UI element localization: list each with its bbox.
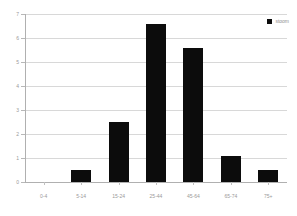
y-tick-label-5: 5 <box>0 59 19 65</box>
y-tick-label-4: 4 <box>0 83 19 89</box>
bar-25-44 <box>146 24 166 182</box>
y-tick-2 <box>21 134 25 135</box>
y-tick-6 <box>21 38 25 39</box>
bar-75+ <box>258 170 278 182</box>
plot-area <box>25 14 287 182</box>
bar-chart: 01234567 0-45-1415-2425-4445-6465-7475+ … <box>0 0 297 216</box>
x-tick-label-75+: 75+ <box>250 193 287 200</box>
x-tick-25-44 <box>156 182 157 185</box>
y-tick-1 <box>21 158 25 159</box>
y-tick-label-2: 2 <box>0 131 19 137</box>
x-tick-label-0-4: 0-4 <box>25 193 62 200</box>
y-tick-label-3: 3 <box>0 107 19 113</box>
legend-swatch-series-1 <box>267 19 272 24</box>
x-tick-65-74 <box>231 182 232 185</box>
y-tick-3 <box>21 110 25 111</box>
bar-45-64 <box>183 48 203 182</box>
legend: stoom <box>267 18 289 24</box>
x-tick-label-5-14: 5-14 <box>62 193 99 200</box>
legend-label-series-1: stoom <box>275 18 289 24</box>
x-tick-label-65-74: 65-74 <box>212 193 249 200</box>
y-tick-0 <box>21 182 25 183</box>
x-tick-15-24 <box>119 182 120 185</box>
x-tick-0-4 <box>44 182 45 185</box>
y-tick-label-7: 7 <box>0 11 19 17</box>
y-tick-label-6: 6 <box>0 35 19 41</box>
x-tick-label-45-64: 45-64 <box>175 193 212 200</box>
y-tick-5 <box>21 62 25 63</box>
y-tick-label-1: 1 <box>0 155 19 161</box>
y-axis-line <box>25 14 26 183</box>
y-tick-label-0: 0 <box>0 179 19 185</box>
gridline-y-7 <box>25 14 287 15</box>
x-tick-label-25-44: 25-44 <box>137 193 174 200</box>
x-tick-5-14 <box>81 182 82 185</box>
x-tick-label-15-24: 15-24 <box>100 193 137 200</box>
bar-5-14 <box>71 170 91 182</box>
y-tick-4 <box>21 86 25 87</box>
x-tick-45-64 <box>193 182 194 185</box>
x-tick-75+ <box>268 182 269 185</box>
bar-65-74 <box>221 156 241 182</box>
bar-15-24 <box>109 122 129 182</box>
y-tick-7 <box>21 14 25 15</box>
